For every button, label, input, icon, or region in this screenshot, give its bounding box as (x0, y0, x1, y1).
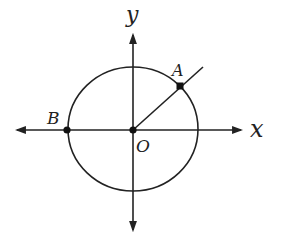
unit-circle-diagram: y x A B O (0, 0, 284, 245)
point-A (177, 83, 184, 90)
origin-label: O (136, 136, 150, 156)
y-axis-label: y (125, 2, 139, 27)
point-B (63, 126, 70, 133)
point-B-label: B (46, 108, 60, 128)
point-O (129, 126, 136, 133)
x-axis-label: x (250, 115, 264, 143)
point-A-label: A (170, 61, 184, 80)
